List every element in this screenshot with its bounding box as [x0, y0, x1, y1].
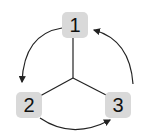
y-connector — [40, 38, 108, 96]
node-3: 3 — [105, 92, 131, 118]
node-3-label: 3 — [112, 94, 123, 117]
node-1-label: 1 — [69, 14, 80, 37]
node-2: 2 — [16, 92, 42, 118]
arrow-1-to-2 — [22, 28, 62, 82]
arrow-3-to-1 — [94, 30, 133, 84]
arrow-2-to-3 — [40, 118, 110, 130]
node-1: 1 — [62, 12, 88, 38]
node-2-label: 2 — [23, 94, 34, 117]
